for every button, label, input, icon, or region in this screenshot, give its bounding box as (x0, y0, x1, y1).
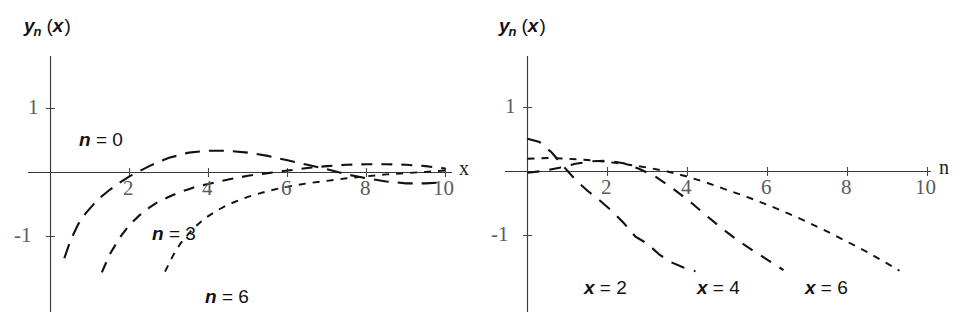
curve-label-n-0: n = 0 (79, 130, 123, 149)
curve-label-x-6: x = 6 (805, 278, 848, 297)
x-tick-label-right-4: 4 (681, 177, 692, 198)
plot-panel-right: yn(x) n 2 4 6 8 10 1 -1 x = 2 x = 4 x = … (487, 0, 973, 319)
curve-label-n-0-rest: = 0 (91, 129, 123, 150)
y-tick-label-right-minus1: -1 (491, 224, 509, 245)
y-axis-label-right-paren-close: ) (539, 15, 545, 36)
curve-label-x-4-var: x (697, 277, 708, 298)
curve-label-n-6-var: n (205, 286, 217, 307)
curve-n-0 (64, 151, 445, 259)
x-tick-label-right-2: 2 (601, 177, 612, 198)
y-tick-label-right-1: 1 (505, 96, 516, 117)
curve-label-x-6-var: x (805, 277, 816, 298)
curve-label-x-4: x = 4 (697, 278, 740, 297)
curve-label-x-4-rest: = 4 (708, 277, 740, 298)
y-axis-label-right-sub: n (509, 24, 517, 39)
curve-label-n-3-var: n (152, 223, 164, 244)
curve-x-2 (528, 139, 696, 271)
x-axis-name-right: n (939, 157, 949, 177)
x-tick-label-left-4: 4 (202, 178, 213, 199)
curve-label-x-6-rest: = 6 (816, 277, 848, 298)
curve-label-x-2-var: x (584, 277, 595, 298)
plot-right-canvas (487, 0, 973, 319)
y-axis-label-left-main: y (24, 15, 35, 36)
curve-n-3 (102, 164, 446, 272)
curve-label-x-2: x = 2 (584, 278, 627, 297)
curve-label-x-2-rest: = 2 (595, 277, 627, 298)
y-tick-label-left-1: 1 (28, 97, 39, 118)
curve-label-n-3-rest: = 3 (164, 223, 196, 244)
curves-left (64, 151, 445, 273)
y-axis-label-left-sub: n (34, 24, 42, 39)
curve-x-4 (528, 161, 784, 270)
curve-label-n-0-var: n (79, 129, 91, 150)
x-tick-label-left-10: 10 (433, 178, 454, 199)
y-axis-label-left: yn(x) (24, 16, 71, 38)
y-axis-label-right: yn(x) (499, 16, 546, 38)
x-tick-label-right-8: 8 (841, 177, 852, 198)
x-axis-name-left: x (459, 158, 469, 178)
y-axis-label-left-arg: x (53, 15, 64, 36)
y-axis-label-right-arg: x (528, 15, 539, 36)
y-axis-label-left-paren-close: ) (64, 15, 70, 36)
x-tick-label-left-8: 8 (360, 178, 371, 199)
curve-label-n-6: n = 6 (205, 287, 249, 306)
y-axis-label-right-main: y (499, 15, 510, 36)
x-tick-label-right-10: 10 (915, 177, 936, 198)
x-tick-label-left-2: 2 (123, 178, 134, 199)
x-tick-label-right-6: 6 (761, 177, 772, 198)
plot-panel-left: yn(x) x 2 4 6 8 10 1 -1 n = 0 n = 3 n = … (0, 0, 487, 319)
axes-left (28, 56, 452, 312)
y-tick-label-left-minus1: -1 (14, 225, 32, 246)
plot-left-canvas (0, 0, 487, 319)
curve-label-n-6-rest: = 6 (217, 286, 249, 307)
figure-bessel-y-functions: yn(x) x 2 4 6 8 10 1 -1 n = 0 n = 3 n = … (0, 0, 973, 319)
axes-right (505, 56, 931, 312)
curves-right (528, 139, 900, 271)
curve-label-n-3: n = 3 (152, 224, 196, 243)
x-tick-label-left-6: 6 (281, 178, 292, 199)
